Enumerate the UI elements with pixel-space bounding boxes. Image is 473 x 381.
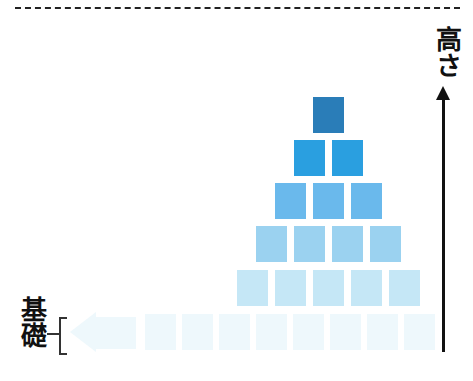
dashed-divider	[15, 7, 460, 9]
pyramid-block-level-3	[351, 183, 382, 219]
height-axis-line	[442, 92, 445, 352]
pyramid-block-level-4	[256, 226, 287, 262]
pyramid-block-level-6	[256, 314, 287, 350]
pyramid-block-level-5	[389, 270, 420, 306]
pyramid-block-level-6	[367, 314, 398, 350]
pyramid-block-level-5	[237, 270, 268, 306]
pyramid-block-level-1	[313, 97, 344, 133]
pyramid-block-level-6	[182, 314, 213, 350]
pyramid-block-level-6	[219, 314, 250, 350]
base-label: 基礎	[12, 296, 44, 348]
pyramid-block-level-4	[332, 226, 363, 262]
pyramid-block-level-5	[313, 270, 344, 306]
height-axis-label: 高さ	[429, 26, 459, 78]
pyramid-block-level-6	[145, 314, 176, 350]
pyramid-block-level-2	[332, 140, 363, 176]
pyramid-block-level-3	[275, 183, 306, 219]
pyramid-block-level-6	[404, 314, 435, 350]
pyramid-block-level-6	[293, 314, 324, 350]
base-arrow-body	[96, 317, 136, 349]
base-bracket-tick	[47, 333, 59, 335]
pyramid-block-level-3	[313, 183, 344, 219]
base-arrow-head	[70, 312, 96, 352]
pyramid-block-level-2	[294, 140, 325, 176]
pyramid-block-level-4	[294, 226, 325, 262]
base-bracket	[59, 317, 67, 355]
pyramid-block-level-5	[275, 270, 306, 306]
pyramid-block-level-5	[351, 270, 382, 306]
pyramid-block-level-6	[330, 314, 361, 350]
pyramid-block-level-4	[370, 226, 401, 262]
